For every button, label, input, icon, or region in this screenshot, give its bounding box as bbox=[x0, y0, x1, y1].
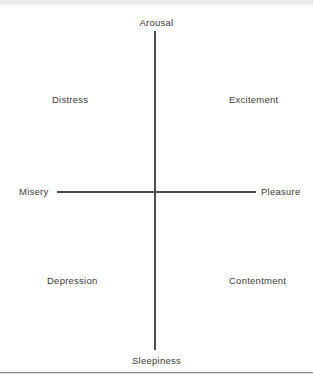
axis-pole-label-pleasure: Pleasure bbox=[261, 186, 301, 197]
axis-pole-label-misery: Misery bbox=[19, 186, 48, 197]
page-bottom-rule-shadow bbox=[0, 373, 313, 374]
scan-artifact-band-soft bbox=[0, 5, 313, 8]
quadrant-label-depression: Depression bbox=[47, 275, 98, 286]
quadrant-label-excitement: Excitement bbox=[229, 94, 279, 105]
axis-pole-label-sleepiness: Sleepiness bbox=[0, 355, 313, 366]
axis-pole-label-arousal: Arousal bbox=[0, 17, 313, 28]
quadrant-label-distress: Distress bbox=[52, 94, 88, 105]
horizontal-axis-line bbox=[57, 191, 256, 193]
affect-circumplex-figure: Arousal Sleepiness Misery Pleasure Distr… bbox=[0, 0, 313, 384]
quadrant-label-contentment: Contentment bbox=[229, 275, 286, 286]
